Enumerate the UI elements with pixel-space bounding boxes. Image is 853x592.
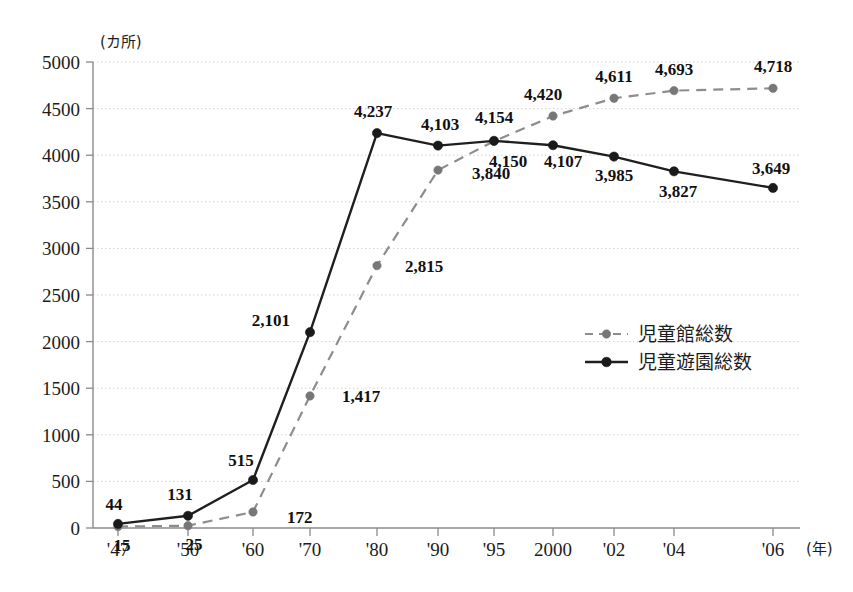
- data-label-s2-8: 3,985: [595, 166, 633, 185]
- data-label-s2-7: 4,107: [544, 152, 583, 171]
- x-tick-label-5: '90: [427, 539, 449, 560]
- data-point-s2-8: [609, 152, 618, 161]
- data-point-s2-9: [669, 167, 678, 176]
- x-axis-ticks: '47'50'60'70'80'90'952000'02'04'06: [107, 528, 784, 560]
- y-tick-label-4000: 4000: [42, 145, 80, 166]
- legend-swatch-marker-1: [602, 330, 610, 338]
- y-tick-label-2000: 2000: [42, 332, 80, 353]
- data-label-s2-6: 4,154: [475, 108, 514, 127]
- x-tick-label-8: '02: [603, 539, 625, 560]
- data-point-s1-9: [670, 86, 678, 94]
- x-tick-label-6: '95: [483, 539, 505, 560]
- legend-label-2: 児童遊園総数: [638, 351, 752, 373]
- x-tick-label-3: '70: [299, 539, 321, 560]
- x-tick-label-4: '80: [366, 539, 388, 560]
- data-label-s2-5: 4,103: [421, 115, 459, 134]
- y-tick-label-3500: 3500: [42, 192, 80, 213]
- data-point-s1-3: [306, 392, 314, 400]
- data-point-s2-2: [248, 475, 257, 484]
- data-label-s2-1: 131: [167, 485, 193, 504]
- data-point-s2-5: [433, 141, 442, 150]
- x-axis-unit-label: (年): [806, 540, 833, 558]
- data-point-labels: 15251721,4172,8153,8404,1504,4204,6114,6…: [106, 57, 793, 554]
- y-tick-label-5000: 5000: [42, 52, 80, 73]
- data-label-s1-0: 15: [114, 536, 131, 555]
- x-tick-label-2: '60: [242, 539, 264, 560]
- data-label-s1-3: 1,417: [342, 387, 381, 406]
- legend-label-1: 児童館総数: [638, 323, 733, 345]
- data-label-s1-7: 4,420: [524, 85, 562, 104]
- data-point-s1-5: [434, 166, 442, 174]
- legend-swatch-marker-2: [602, 357, 612, 367]
- data-point-s2-0: [113, 519, 122, 528]
- data-point-s1-8: [610, 94, 618, 102]
- data-point-s2-6: [489, 136, 498, 145]
- data-label-s1-4: 2,815: [405, 257, 443, 276]
- y-tick-label-500: 500: [52, 471, 81, 492]
- data-point-s1-1: [184, 521, 192, 529]
- data-label-s2-3: 2,101: [252, 311, 290, 330]
- data-label-s2-10: 3,649: [752, 159, 790, 178]
- data-label-s1-2: 172: [287, 508, 313, 527]
- data-label-s2-4: 4,237: [354, 102, 393, 121]
- data-label-s1-1: 25: [186, 535, 203, 554]
- data-label-s1-8: 4,611: [595, 67, 632, 86]
- chart-legend: 児童館総数児童遊園総数: [585, 323, 752, 373]
- series-line-1: [118, 88, 773, 526]
- data-point-s1-7: [549, 112, 557, 120]
- data-point-s2-3: [305, 328, 314, 337]
- y-tick-label-1500: 1500: [42, 378, 80, 399]
- data-series: [113, 84, 777, 531]
- data-point-s1-4: [373, 261, 381, 269]
- y-tick-label-2500: 2500: [42, 285, 80, 306]
- data-label-s1-6: 4,150: [489, 152, 527, 171]
- data-point-s1-2: [249, 508, 257, 516]
- y-axis-unit-label: (カ所): [100, 33, 142, 51]
- y-axis-ticks: 0500100015002000250030003500400045005000: [42, 52, 93, 539]
- y-tick-label-0: 0: [71, 518, 81, 539]
- data-label-s2-2: 515: [228, 451, 254, 470]
- data-label-s2-0: 44: [106, 495, 124, 514]
- data-point-s2-4: [372, 129, 381, 138]
- x-tick-label-9: '04: [663, 539, 686, 560]
- data-label-s1-10: 4,718: [754, 57, 792, 76]
- data-label-s1-9: 4,693: [655, 60, 693, 79]
- line-chart: 0500100015002000250030003500400045005000…: [0, 0, 853, 592]
- data-point-s1-10: [769, 84, 777, 92]
- data-point-s2-1: [183, 511, 192, 520]
- y-tick-label-1000: 1000: [42, 425, 80, 446]
- data-point-s2-7: [548, 141, 557, 150]
- x-tick-label-7: 2000: [534, 539, 572, 560]
- y-tick-label-3000: 3000: [42, 238, 80, 259]
- y-tick-label-4500: 4500: [42, 99, 80, 120]
- x-tick-label-10: '06: [762, 539, 784, 560]
- data-label-s2-9: 3,827: [659, 182, 698, 201]
- chart-container: 0500100015002000250030003500400045005000…: [0, 0, 853, 592]
- data-point-s2-10: [768, 183, 777, 192]
